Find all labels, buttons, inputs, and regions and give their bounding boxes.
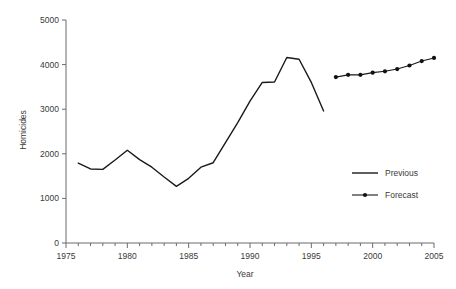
x-tick-label: 1975: [57, 251, 76, 261]
x-axis-title: Year: [236, 269, 253, 279]
data-point-marker: [383, 69, 387, 73]
data-point-marker: [420, 59, 424, 63]
legend-label: Forecast: [385, 190, 419, 200]
data-point-marker: [432, 56, 436, 60]
y-tick-label: 0: [54, 238, 59, 248]
data-point-marker: [407, 63, 411, 67]
legend-marker-icon: [363, 193, 367, 197]
y-tick-label: 1000: [40, 193, 59, 203]
data-point-marker: [334, 75, 338, 79]
x-tick-label: 2005: [425, 251, 444, 261]
x-tick-label: 1980: [118, 251, 137, 261]
x-tick-label: 2000: [363, 251, 382, 261]
data-point-marker: [371, 71, 375, 75]
x-tick-label: 1985: [179, 251, 198, 261]
y-tick-label: 2000: [40, 149, 59, 159]
data-point-marker: [358, 73, 362, 77]
y-tick-label: 3000: [40, 104, 59, 114]
x-tick-label: 1995: [302, 251, 321, 261]
data-point-marker: [395, 67, 399, 71]
y-tick-label: 5000: [40, 15, 59, 25]
x-tick-label: 1990: [241, 251, 260, 261]
y-axis-title: Homicides: [18, 110, 28, 150]
chart-background: [0, 0, 456, 289]
legend-label: Previous: [385, 168, 418, 178]
data-point-marker: [346, 73, 350, 77]
homicides-line-chart: 010002000300040005000 197519801985199019…: [0, 0, 456, 289]
chart-container: 010002000300040005000 197519801985199019…: [0, 0, 456, 289]
y-tick-label: 4000: [40, 60, 59, 70]
